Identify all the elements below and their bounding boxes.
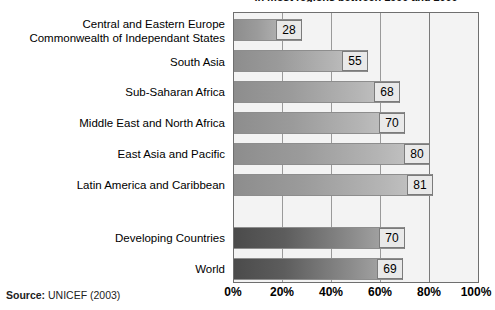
category-label-line2: Commonwealth of Independant States (0, 32, 225, 46)
x-tick-100: 100% (461, 285, 492, 299)
category-label-south-asia: South Asia (0, 56, 225, 69)
x-tick-60: 60% (368, 285, 392, 299)
category-label-line1: Central and Eastern Europe (0, 18, 225, 32)
x-tick-80: 80% (417, 285, 441, 299)
category-label-east-asia-pacific: East Asia and Pacific (0, 148, 225, 161)
source-note: Source: UNICEF (2003) (6, 289, 120, 301)
bar-value-south-asia: 55 (342, 51, 368, 71)
bar-latin-america-caribbean[interactable] (234, 174, 433, 196)
bar-value-world: 69 (377, 259, 403, 279)
category-label-world: World (0, 263, 225, 276)
category-label-central-eastern-europe-cis: Central and Eastern Europe Commonwealth … (0, 18, 225, 45)
x-tick-0: 0% (224, 285, 241, 299)
category-label-latin-america-caribbean: Latin America and Caribbean (0, 179, 225, 192)
category-label-developing-countries: Developing Countries (0, 232, 225, 245)
bar-east-asia-pacific[interactable] (234, 143, 430, 165)
chart-title: in most regions between 1990 and 2000 (233, 0, 479, 2)
bar-value-latin-america-caribbean: 81 (407, 175, 433, 195)
x-tick-20: 20% (270, 285, 294, 299)
x-tick-40: 40% (319, 285, 343, 299)
source-label: Source: (6, 289, 45, 301)
category-axis-labels: Central and Eastern Europe Commonwealth … (0, 12, 229, 283)
bars-layer: 28 55 68 70 80 81 70 69 (234, 13, 478, 282)
bar-value-middle-east-north-africa: 70 (379, 113, 405, 133)
x-axis-tick-labels: 0% 20% 40% 60% 80% 100% (233, 285, 479, 301)
category-label-middle-east-north-africa: Middle East and North Africa (0, 117, 225, 130)
bar-value-sub-saharan-africa: 68 (374, 82, 400, 102)
plot-area: 28 55 68 70 80 81 70 69 (233, 12, 479, 283)
bar-value-developing-countries: 70 (379, 228, 405, 248)
bar-value-east-asia-pacific: 80 (404, 144, 430, 164)
bar-value-central-eastern-europe-cis: 28 (276, 20, 302, 40)
source-value: UNICEF (2003) (48, 289, 120, 301)
category-label-sub-saharan-africa: Sub-Saharan Africa (0, 86, 225, 99)
